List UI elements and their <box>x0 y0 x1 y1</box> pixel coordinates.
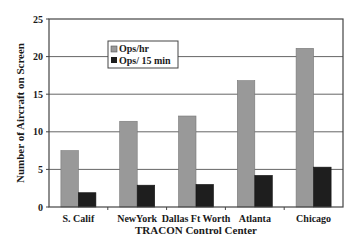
x-category-label: Dallas Ft Worth <box>162 213 231 224</box>
y-axis-ticks: 0510152025 <box>33 14 49 213</box>
y-tick-label: 10 <box>33 126 43 137</box>
legend-label-ops-hr: Ops/hr <box>119 43 150 54</box>
y-axis-title: Number of Aircraft on Screen <box>14 43 26 183</box>
bar-ops-15min <box>137 185 155 207</box>
legend-label-ops-15min: Ops/ 15 min <box>119 55 171 66</box>
x-axis-ticks: S. CalifNewYorkDallas Ft WorthAtlantaChi… <box>63 207 332 224</box>
bars <box>61 48 331 207</box>
legend-swatch-ops-hr <box>111 46 117 52</box>
bar-ops-hr <box>179 116 197 207</box>
x-category-label: NewYork <box>117 213 157 224</box>
bar-ops-hr <box>237 81 255 207</box>
bar-ops-hr <box>61 151 79 207</box>
y-tick-label: 0 <box>38 202 43 213</box>
y-tick-label: 20 <box>33 51 43 62</box>
bar-ops-15min <box>196 184 214 207</box>
bar-ops-15min <box>314 167 332 207</box>
y-tick-label: 5 <box>38 164 43 175</box>
bar-ops-15min <box>255 175 272 207</box>
x-category-label: Atlanta <box>239 213 271 224</box>
x-category-label: S. Calif <box>63 213 95 224</box>
x-category-label: Chicago <box>296 213 331 224</box>
x-axis-title: TRACON Control Center <box>135 224 257 236</box>
bar-ops-15min <box>78 193 96 207</box>
y-tick-label: 25 <box>33 14 43 25</box>
y-tick-label: 15 <box>33 89 43 100</box>
bar-ops-hr <box>120 121 138 207</box>
legend: Ops/hr Ops/ 15 min <box>108 41 178 68</box>
legend-swatch-ops-15min <box>111 57 117 63</box>
bar-ops-hr <box>296 48 314 207</box>
bar-chart: 0510152025 S. CalifNewYorkDallas Ft Wort… <box>0 0 358 249</box>
